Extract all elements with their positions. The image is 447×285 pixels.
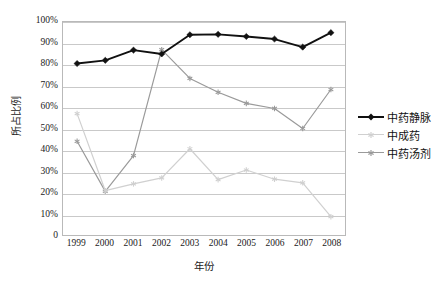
legend-swatch <box>358 129 384 141</box>
x-axis-tick-label: 2008 <box>315 238 349 248</box>
y-axis-tick-label: 50% <box>41 124 58 133</box>
x-axis-tick-labels: 1999200020012002200320042005200620072008 <box>62 238 346 254</box>
diamond-marker-icon <box>367 113 375 121</box>
data-point-marker <box>74 60 80 66</box>
legend-label: 中药静脉 <box>387 109 431 125</box>
series-line <box>77 50 331 192</box>
line-chart: 所占比例 100%90%80%70%60%50%40%30%20%10%0 19… <box>0 0 447 285</box>
star-marker-icon <box>367 131 375 139</box>
y-axis-tick-label: 100% <box>36 16 58 25</box>
y-axis-tick-label: 0 <box>53 231 58 240</box>
y-axis-tick-label: 80% <box>41 59 58 68</box>
y-axis-tick-label: 20% <box>41 188 58 197</box>
chart-legend: 中药静脉中成药中药汤剂 <box>358 108 446 162</box>
y-axis-tick-label: 10% <box>41 210 58 219</box>
y-axis-tick-label: 60% <box>41 102 58 111</box>
legend-item[interactable]: 中药静脉 <box>358 108 446 126</box>
data-point-marker <box>243 33 249 39</box>
legend-item[interactable]: 中成药 <box>358 126 446 144</box>
series-line <box>77 114 331 217</box>
data-point-marker <box>130 47 136 53</box>
legend-item[interactable]: 中药汤剂 <box>358 144 446 162</box>
y-axis-tick-label: 70% <box>41 81 58 90</box>
data-point-marker <box>216 90 221 96</box>
plot-area <box>62 21 346 236</box>
y-axis-tick-label: 40% <box>41 145 58 154</box>
legend-label: 中药汤剂 <box>387 145 431 161</box>
legend-label: 中成药 <box>387 127 420 143</box>
legend-swatch <box>358 147 384 159</box>
series-line <box>77 33 331 64</box>
data-point-marker <box>215 31 221 37</box>
star-marker-icon <box>367 149 375 157</box>
y-axis-tick-label: 30% <box>41 167 58 176</box>
y-axis-tick-labels: 100%90%80%70%60%50%40%30%20%10%0 <box>18 0 58 285</box>
series-layer <box>63 22 345 235</box>
legend-swatch <box>358 111 384 123</box>
data-point-marker <box>271 36 277 42</box>
data-point-marker <box>75 111 80 117</box>
data-point-marker <box>102 57 108 63</box>
y-axis-tick-label: 90% <box>41 38 58 47</box>
x-axis-title: 年份 <box>62 258 346 273</box>
